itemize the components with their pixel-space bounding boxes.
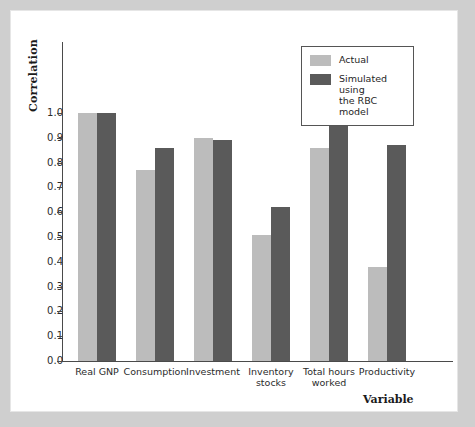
- y-axis-tick: 0.0: [11, 361, 63, 362]
- x-axis-line: [62, 361, 453, 362]
- legend-label-simulated-line2: the RBC model: [339, 95, 377, 117]
- bar-group: [252, 113, 290, 361]
- y-axis-tick: 0.5: [11, 237, 63, 238]
- y-axis-tick: 0.4: [11, 262, 63, 263]
- x-axis-category-label-line: worked: [312, 377, 347, 388]
- y-axis-tick: 0.7: [11, 187, 63, 188]
- y-axis-tick-mark: [57, 163, 63, 164]
- bar-group: [136, 113, 174, 361]
- y-axis-tick: 0.1: [11, 336, 63, 337]
- y-axis-tick-mark: [57, 361, 63, 362]
- y-axis-tick-mark: [57, 287, 63, 288]
- y-axis-tick-mark: [57, 262, 63, 263]
- x-axis-category-label-line: stocks: [256, 377, 286, 388]
- y-axis-tick: 1.0: [11, 113, 63, 114]
- bar-actual[interactable]: [194, 138, 213, 361]
- bar-simulated[interactable]: [97, 113, 116, 361]
- bar-group: [310, 113, 348, 361]
- y-axis-tick: 0.8: [11, 163, 63, 164]
- bar-actual[interactable]: [78, 113, 97, 361]
- chart-legend: Actual Simulated usingthe RBC model: [301, 46, 414, 126]
- bar-simulated[interactable]: [329, 125, 348, 361]
- x-axis-title: Variable: [363, 393, 414, 406]
- bar-simulated[interactable]: [271, 207, 290, 361]
- legend-item-simulated: Simulated usingthe RBC model: [310, 73, 405, 117]
- legend-item-actual: Actual: [310, 54, 405, 66]
- y-axis-title: Correlation: [27, 31, 40, 121]
- bar-actual[interactable]: [136, 170, 155, 361]
- legend-label-simulated-line1: Simulated using: [339, 73, 387, 95]
- y-axis-tick-mark: [57, 187, 63, 188]
- plot-area: Correlation Variable 1.00.90.80.70.60.50…: [11, 11, 457, 411]
- bar-simulated[interactable]: [387, 145, 406, 361]
- legend-swatch-actual: [310, 55, 331, 66]
- bar-simulated[interactable]: [213, 140, 232, 361]
- y-axis-tick: 0.2: [11, 311, 63, 312]
- legend-label-actual: Actual: [339, 54, 369, 65]
- bar-group: [78, 113, 116, 361]
- figure-container: Correlation Variable 1.00.90.80.70.60.50…: [0, 0, 475, 427]
- chart-panel: Correlation Variable 1.00.90.80.70.60.50…: [11, 11, 457, 411]
- y-axis-tick-mark: [57, 212, 63, 213]
- y-axis-tick: 0.6: [11, 212, 63, 213]
- x-axis-category-label: Productivity: [344, 366, 430, 377]
- bar-simulated[interactable]: [155, 148, 174, 361]
- y-axis-tick: 0.3: [11, 287, 63, 288]
- x-axis-category-label-line: Productivity: [359, 366, 415, 377]
- bar-group: [368, 113, 406, 361]
- bar-actual[interactable]: [310, 148, 329, 361]
- y-axis-tick-mark: [57, 237, 63, 238]
- bar-group: [194, 113, 232, 361]
- y-axis-tick: 0.9: [11, 138, 63, 139]
- legend-label-simulated: Simulated usingthe RBC model: [339, 73, 405, 117]
- y-axis-tick-mark: [57, 311, 63, 312]
- y-axis-tick-mark: [57, 138, 63, 139]
- y-axis-tick-mark: [57, 113, 63, 114]
- y-axis-tick-mark: [57, 336, 63, 337]
- bar-actual[interactable]: [368, 267, 387, 361]
- legend-swatch-simulated: [310, 74, 331, 85]
- bar-actual[interactable]: [252, 235, 271, 361]
